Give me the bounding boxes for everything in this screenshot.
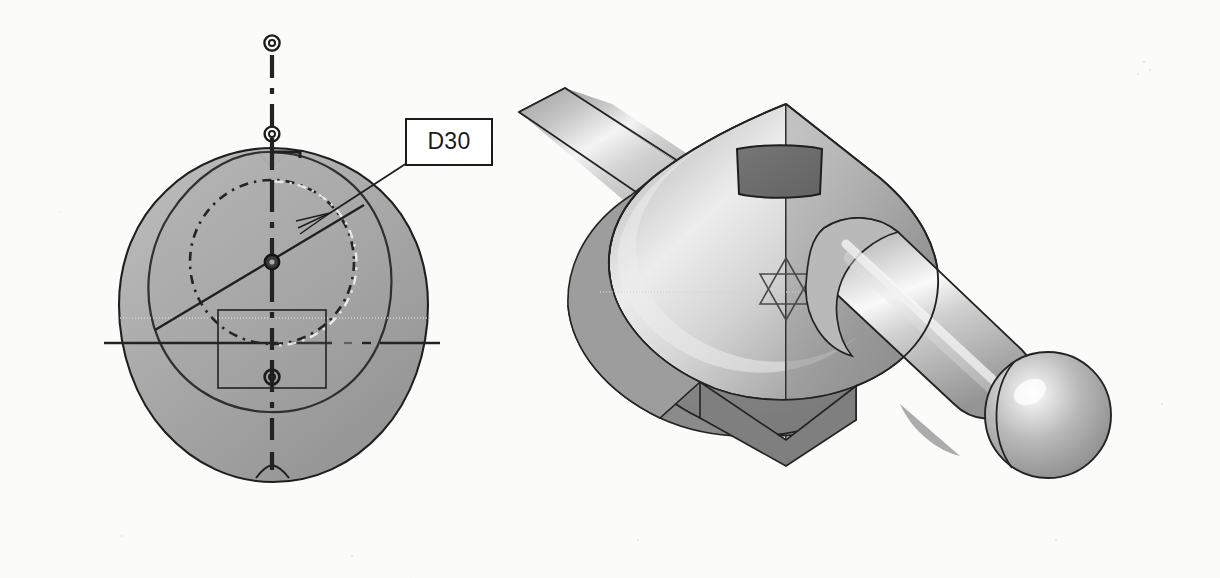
cad-figure-svg: D30: [0, 0, 1220, 578]
cad-figure-canvas: D30: [0, 0, 1220, 578]
ball-end-sphere: [985, 352, 1111, 478]
d30-callout-label: D30: [427, 128, 470, 154]
point-marker-center: [265, 255, 279, 269]
d30-callout[interactable]: D30: [406, 119, 492, 165]
